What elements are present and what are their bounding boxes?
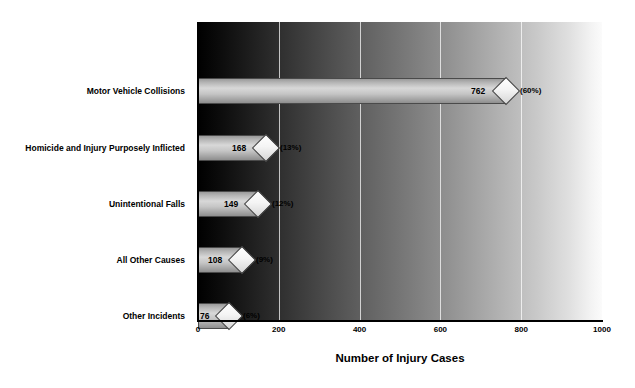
percent-label-all-other-causes: (9%) xyxy=(256,255,273,264)
bar-motor-vehicle-collisions xyxy=(198,78,506,104)
x-axis-line xyxy=(197,320,603,322)
category-label-other-incidents: Other Incidents xyxy=(123,311,193,321)
category-label-all-other-causes: All Other Causes xyxy=(117,255,194,265)
gridline-800 xyxy=(521,22,522,320)
gridline-600 xyxy=(440,22,441,320)
category-label-homicide-and-injury-purposely-inflicted: Homicide and Injury Purposely Inflicted xyxy=(25,143,193,153)
xtick-1000: 1000 xyxy=(582,325,622,334)
category-axis-labels: Motor Vehicle Collisions Homicide and In… xyxy=(0,22,193,320)
value-label-unintentional-falls: 149 xyxy=(224,199,238,209)
xtick-200: 200 xyxy=(259,325,299,334)
xtick-600: 600 xyxy=(420,325,460,334)
y-axis-line xyxy=(197,22,199,322)
category-label-motor-vehicle-collisions: Motor Vehicle Collisions xyxy=(87,86,193,96)
xtick-0: 0 xyxy=(178,325,218,334)
value-label-all-other-causes: 108 xyxy=(208,255,222,265)
value-label-motor-vehicle-collisions: 762 xyxy=(471,86,485,96)
x-axis-title: Number of Injury Cases xyxy=(198,352,602,364)
xtick-400: 400 xyxy=(340,325,380,334)
percent-label-motor-vehicle-collisions: (60%) xyxy=(520,86,541,95)
percent-label-homicide-and-injury-purposely-inflicted: (13%) xyxy=(280,143,301,152)
gridline-400 xyxy=(360,22,361,320)
percent-label-unintentional-falls: (12%) xyxy=(272,199,293,208)
value-label-homicide-and-injury-purposely-inflicted: 168 xyxy=(232,143,246,153)
percent-label-other-incidents: (6%) xyxy=(243,311,260,320)
injury-cases-bar-chart: 762 168 149 108 76 (60%) (13%) (12%) (9%… xyxy=(0,0,635,388)
gridline-200 xyxy=(279,22,280,320)
category-label-unintentional-falls: Unintentional Falls xyxy=(109,199,193,209)
plot-area: 762 168 149 108 76 (60%) (13%) (12%) (9%… xyxy=(198,22,602,320)
xtick-800: 800 xyxy=(501,325,541,334)
